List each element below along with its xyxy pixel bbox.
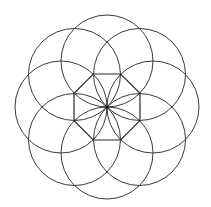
rosette-diagram: [0, 0, 211, 207]
center-point: [105, 105, 108, 108]
